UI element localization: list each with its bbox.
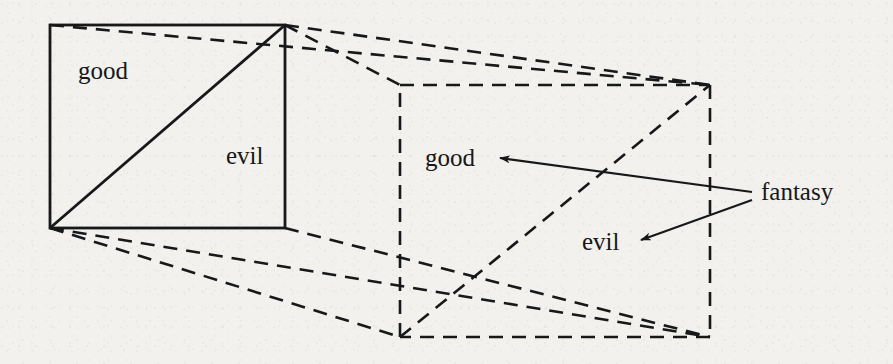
label-evil-front: evil [226, 143, 264, 168]
fantasy-to-evil-arrow [641, 200, 752, 240]
label-evil-back: evil [582, 229, 620, 254]
fantasy-to-good-arrow [500, 158, 752, 192]
label-good-front: good [78, 58, 128, 83]
connector-bottom-left-to-back-bottom-left [50, 228, 400, 337]
figure-canvas: good evil good evil fantasy [0, 0, 893, 364]
back-square-diagonal [400, 85, 710, 337]
front-square-diagonal [50, 25, 285, 228]
wireframe-cube-diagram [0, 0, 893, 364]
label-fantasy: fantasy [761, 179, 833, 204]
connector-top-left-to-back-top-right [50, 25, 710, 85]
label-good-back: good [425, 145, 475, 170]
cube-connector-edges [50, 25, 710, 337]
fantasy-leader-arrows [500, 158, 752, 240]
connector-top-right-to-back-top-right [285, 25, 710, 85]
